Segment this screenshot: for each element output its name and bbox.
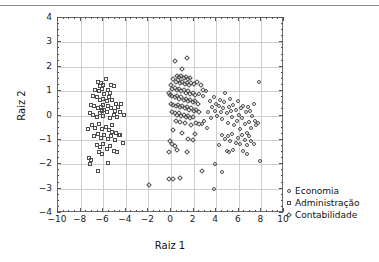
data-point bbox=[192, 131, 198, 137]
data-point bbox=[171, 128, 177, 134]
data-point bbox=[106, 161, 110, 165]
data-point bbox=[247, 120, 251, 124]
data-point bbox=[212, 95, 216, 99]
data-point bbox=[100, 109, 104, 113]
data-point bbox=[98, 84, 102, 88]
data-point bbox=[201, 94, 205, 98]
legend-item[interactable]: Economia bbox=[287, 185, 360, 197]
data-point bbox=[234, 108, 238, 112]
y-tick-label: −2 bbox=[30, 158, 52, 168]
data-point bbox=[244, 110, 248, 114]
data-point bbox=[215, 114, 219, 118]
data-point bbox=[174, 147, 180, 153]
data-point bbox=[108, 91, 112, 95]
data-point bbox=[118, 133, 122, 137]
data-point bbox=[177, 175, 183, 181]
data-point bbox=[88, 162, 92, 166]
axis-tick bbox=[283, 208, 284, 212]
data-point bbox=[115, 115, 119, 119]
data-point bbox=[234, 141, 238, 145]
data-point bbox=[104, 77, 108, 81]
data-point bbox=[217, 104, 221, 108]
x-tick-label: −6 bbox=[96, 214, 109, 224]
data-point bbox=[171, 176, 177, 182]
axis-tick bbox=[57, 212, 61, 213]
data-point bbox=[218, 98, 222, 102]
data-point bbox=[110, 130, 114, 134]
data-point bbox=[228, 139, 232, 143]
data-point bbox=[220, 170, 224, 174]
data-point bbox=[190, 137, 196, 143]
x-tick-label: 6 bbox=[235, 214, 241, 224]
data-point bbox=[199, 168, 205, 174]
legend-item[interactable]: Administração bbox=[287, 197, 360, 209]
data-point bbox=[105, 110, 109, 114]
data-point bbox=[184, 149, 190, 155]
x-tick-label: 4 bbox=[212, 214, 218, 224]
x-tick-label: −8 bbox=[73, 214, 86, 224]
data-point bbox=[180, 130, 186, 136]
data-point bbox=[229, 109, 233, 113]
data-point bbox=[184, 56, 190, 62]
data-point bbox=[252, 142, 256, 146]
data-point bbox=[208, 99, 212, 103]
data-point bbox=[110, 123, 114, 127]
data-point bbox=[182, 120, 188, 126]
data-point bbox=[206, 110, 210, 114]
data-point bbox=[257, 80, 261, 84]
axis-tick bbox=[283, 17, 284, 21]
data-point bbox=[227, 150, 231, 154]
x-tick-label: 2 bbox=[190, 214, 196, 224]
x-tick-label: 8 bbox=[258, 214, 264, 224]
data-point bbox=[249, 126, 253, 130]
data-point bbox=[205, 126, 209, 130]
data-point bbox=[86, 127, 90, 131]
data-point bbox=[226, 121, 230, 125]
data-point bbox=[221, 106, 225, 110]
data-point bbox=[240, 133, 244, 137]
data-point bbox=[222, 100, 226, 104]
data-point bbox=[256, 121, 260, 125]
scatter-plot-figure: −10−8−6−4−20246810−4−3−2−101234 Raiz 1 R… bbox=[0, 0, 379, 262]
data-point bbox=[243, 138, 247, 142]
data-point bbox=[243, 122, 247, 126]
chart-legend: EconomiaAdministraçãoContabilidade bbox=[287, 185, 360, 221]
axis-tick bbox=[279, 212, 283, 213]
data-point bbox=[236, 136, 240, 140]
data-point bbox=[192, 92, 198, 98]
data-point bbox=[113, 138, 117, 142]
data-point bbox=[102, 92, 106, 96]
data-point bbox=[217, 143, 221, 147]
data-point bbox=[97, 122, 101, 126]
data-point bbox=[100, 152, 104, 156]
x-axis-label: Raiz 1 bbox=[57, 240, 283, 251]
data-point bbox=[101, 114, 105, 118]
y-tick-label: 1 bbox=[30, 85, 52, 95]
y-tick-label: 2 bbox=[30, 61, 52, 71]
data-point bbox=[236, 99, 240, 103]
legend-item[interactable]: Contabilidade bbox=[287, 209, 360, 221]
data-point bbox=[231, 103, 235, 107]
data-point bbox=[146, 182, 152, 188]
data-point bbox=[245, 152, 249, 156]
data-point bbox=[101, 103, 105, 107]
y-tick-label: −4 bbox=[30, 207, 52, 217]
data-point bbox=[232, 123, 236, 127]
y-axis-label: Raiz 2 bbox=[16, 76, 27, 136]
data-point bbox=[116, 105, 120, 109]
data-point bbox=[195, 101, 201, 107]
circle-marker-icon bbox=[287, 189, 291, 193]
data-point bbox=[209, 116, 213, 120]
data-point bbox=[166, 149, 172, 155]
y-tick-label: 3 bbox=[30, 36, 52, 46]
data-point bbox=[220, 117, 224, 121]
data-point bbox=[241, 104, 245, 108]
data-point bbox=[238, 127, 242, 131]
data-point bbox=[180, 67, 186, 73]
legend-label: Administração bbox=[295, 197, 360, 209]
data-point bbox=[121, 141, 125, 145]
x-tick-label: −4 bbox=[118, 214, 131, 224]
data-points-layer bbox=[57, 17, 283, 212]
header-divider bbox=[0, 5, 379, 6]
y-tick-label: 4 bbox=[30, 12, 52, 22]
